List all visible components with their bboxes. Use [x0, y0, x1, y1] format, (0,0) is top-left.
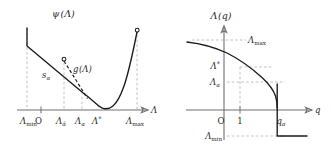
right-origin-label: O — [218, 116, 225, 126]
ytick-lmax-sub: max — [254, 40, 267, 46]
left-x-axis — [17, 107, 148, 114]
right-ytick-labels: Λmax Λ* Λα Λmin — [204, 35, 267, 142]
right-title-arg: (q) — [218, 10, 232, 21]
ytick-lambda-star: Λ* — [210, 60, 221, 71]
xtick-lmax-base: Λ — [125, 116, 132, 126]
left-plot-title: ψ(Λ) — [52, 8, 75, 19]
g-lambda-label: g(Λ) — [73, 64, 92, 74]
s-alpha-label: sα — [42, 70, 50, 81]
right-plot-group: Λ(q) q Λmax Λ* Λα Λmin O 1 qα — [186, 10, 321, 142]
s-alpha-sub: α — [46, 75, 50, 81]
left-title-arg: (Λ) — [60, 8, 75, 19]
xtick-lmax-sub: max — [132, 121, 145, 127]
ytick-lmax-base: Λ — [247, 35, 254, 45]
ytick-lal-base: Λ — [209, 77, 216, 87]
ytick-lal-sub: α — [216, 82, 220, 88]
ytick-lstar-base: Λ — [210, 61, 217, 71]
right-title-fn: Λ — [210, 10, 218, 21]
right-xaxis-label: q — [315, 105, 321, 115]
ytick-lmin-sub: min — [211, 136, 222, 142]
right-xtick-labels: O 1 qα — [218, 116, 286, 127]
xtick-lab-base: Λ — [55, 116, 62, 126]
left-title-fn: ψ — [52, 8, 60, 19]
q-alpha-sub: α — [282, 121, 286, 127]
xtick-ls-sub: * — [98, 115, 102, 123]
xtick-lambda-star: Λ* — [91, 115, 102, 126]
left-plot-group: ψ(Λ) Λ sα g(Λ) Λmin O Λᾱ Λα Λ* — [17, 8, 157, 127]
psi-max-open-marker — [135, 28, 139, 32]
xtick-lab-sub: ᾱ — [62, 121, 66, 127]
right-one-label: 1 — [237, 116, 242, 126]
ytick-lstar-sub: * — [217, 60, 221, 68]
right-plot-title: Λ(q) — [210, 10, 232, 21]
xtick-lambda-alpha: Λα — [74, 116, 85, 127]
g-lambda-open-marker — [62, 57, 66, 61]
left-xaxis-label: Λ — [150, 105, 157, 115]
ytick-lambda-alpha: Λα — [209, 77, 220, 88]
xtick-lambda-max: Λmax — [125, 116, 145, 127]
xtick-origin: O — [35, 116, 42, 126]
ytick-lmin-base: Λ — [204, 131, 211, 141]
ytick-lambda-max: Λmax — [247, 35, 267, 46]
lambda-q-curve — [187, 42, 277, 108]
two-panel-plot-svg: ψ(Λ) Λ sα g(Λ) Λmin O Λᾱ Λα Λ* — [0, 0, 331, 153]
xtick-lambda-min-base: Λ — [19, 116, 26, 126]
xtick-lambda-alpha-bar: Λᾱ — [55, 116, 66, 127]
right-q-alpha-label: qα — [276, 116, 285, 127]
figure-container: ψ(Λ) Λ sα g(Λ) Λmin O Λᾱ Λα Λ* — [0, 0, 331, 153]
left-xtick-labels: Λmin O Λᾱ Λα Λ* Λmax — [19, 115, 145, 126]
xtick-ls-base: Λ — [91, 116, 98, 126]
xtick-la-sub: α — [81, 121, 85, 127]
g-lambda-arg: (Λ) — [79, 64, 92, 74]
ytick-lambda-min: Λmin — [204, 131, 222, 142]
xtick-la-base: Λ — [74, 116, 81, 126]
